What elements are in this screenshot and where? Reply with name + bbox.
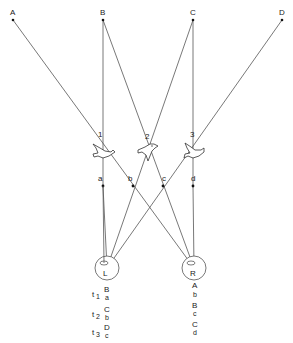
right-seq-item-2: B c (192, 301, 197, 317)
svg-text:b: b (105, 314, 109, 321)
svg-text:t: t (92, 310, 95, 319)
svg-text:B: B (192, 301, 197, 310)
midpoint-d: d (191, 174, 195, 187)
left-sequence: t 1 B a t 2 C b t 3 D c (92, 285, 110, 339)
right-sequence: A b B c C d (192, 281, 198, 336)
svg-text:D: D (104, 323, 110, 332)
left-seq-item-2: t 2 C b (92, 305, 110, 321)
source-B: B (100, 8, 105, 21)
svg-text:C: C (192, 320, 198, 329)
midpoint-label-c: c (162, 174, 166, 183)
left-seq-item-3: t 3 D c (92, 323, 110, 339)
source-label-A: A (10, 8, 16, 17)
left-seq-item-1: t 1 B a (92, 285, 109, 301)
svg-text:3: 3 (96, 331, 100, 338)
source-lines (13, 20, 282, 268)
source-label-D: D (279, 8, 285, 17)
svg-text:t: t (92, 290, 95, 299)
svg-text:b: b (193, 291, 197, 298)
bird-2-icon (138, 144, 158, 161)
svg-text:d: d (193, 329, 197, 336)
source-A: A (10, 8, 16, 21)
source-label-B: B (100, 8, 105, 17)
left-eye-label: L (103, 269, 108, 278)
source-C: C (190, 8, 196, 21)
midpoint-label-d: d (191, 174, 195, 183)
right-seq-item-3: C d (192, 320, 198, 336)
right-eye-label: R (190, 269, 196, 278)
right-seq-item-1: A b (192, 281, 198, 298)
bird-label-1: 1 (98, 130, 103, 139)
svg-text:1: 1 (96, 293, 100, 300)
source-label-C: C (190, 8, 196, 17)
midpoint-b: b (128, 174, 134, 187)
svg-text:C: C (104, 305, 110, 314)
svg-text:c: c (193, 310, 197, 317)
stereo-vision-diagram: A B C D 1 2 3 a b c d (0, 0, 293, 343)
bird-label-2: 2 (145, 132, 150, 141)
source-D: D (279, 8, 285, 21)
midpoint-label-a: a (98, 174, 103, 183)
midpoint-label-b: b (128, 174, 133, 183)
left-eye: L (95, 186, 119, 280)
bird-label-3: 3 (190, 130, 195, 139)
svg-text:2: 2 (96, 313, 100, 320)
svg-text:c: c (105, 332, 109, 339)
midpoint-a: a (98, 174, 104, 187)
svg-text:B: B (104, 285, 109, 294)
right-eye: R (182, 256, 206, 280)
svg-text:A: A (192, 281, 198, 290)
svg-text:t: t (92, 328, 95, 337)
svg-text:a: a (105, 294, 109, 301)
